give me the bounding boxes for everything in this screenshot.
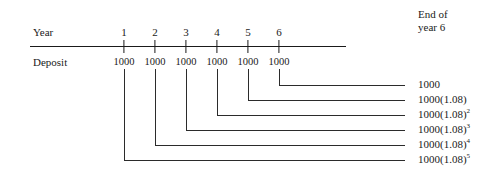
future-value-base-year-5: 1000(1.08) xyxy=(418,93,467,105)
deposit-amount-year-5: 1000 xyxy=(238,57,259,68)
connector-line-year-5 xyxy=(248,100,405,101)
future-value-label-year-1: 1000(1.08)5 xyxy=(418,154,470,165)
connector-line-year-6 xyxy=(279,85,405,86)
future-value-base-year-4: 1000(1.08) xyxy=(418,108,467,120)
connector-line-year-1 xyxy=(124,160,405,161)
future-value-base-year-6: 1000 xyxy=(418,78,440,90)
future-value-exponent-year-3: 3 xyxy=(467,122,471,130)
axis-tick-year-4 xyxy=(216,40,217,53)
axis-tick-year-1 xyxy=(123,40,124,53)
year-number-3: 3 xyxy=(183,27,189,38)
year-number-6: 6 xyxy=(276,27,282,38)
year-number-4: 4 xyxy=(214,27,220,38)
connector-line-year-3 xyxy=(186,130,405,131)
connector-line-year-2 xyxy=(155,145,405,146)
year-number-5: 5 xyxy=(245,27,251,38)
time-axis-line xyxy=(30,46,346,47)
connector-line-year-4 xyxy=(217,115,405,116)
future-value-base-year-1: 1000(1.08) xyxy=(418,153,467,165)
cash-flow-timeline-figure: End of year 6 Year Deposit 1 2 3 4 5 6 1… xyxy=(0,0,496,187)
deposit-amount-year-4: 1000 xyxy=(207,57,228,68)
drop-line-year-3 xyxy=(186,69,187,130)
future-value-label-year-3: 1000(1.08)3 xyxy=(418,124,470,135)
future-value-label-year-4: 1000(1.08)2 xyxy=(418,109,470,120)
future-value-exponent-year-1: 5 xyxy=(467,152,471,160)
drop-line-year-6 xyxy=(279,69,280,85)
future-value-exponent-year-2: 4 xyxy=(467,137,471,145)
deposit-amount-year-6: 1000 xyxy=(269,57,290,68)
axis-tick-year-2 xyxy=(154,40,155,53)
year-number-1: 1 xyxy=(121,27,127,38)
future-value-label-year-2: 1000(1.08)4 xyxy=(418,139,470,150)
axis-tick-year-6 xyxy=(278,40,279,53)
deposit-row-label: Deposit xyxy=(33,57,67,68)
drop-line-year-1 xyxy=(124,69,125,160)
end-of-year-heading-line2: year 6 xyxy=(418,21,448,34)
end-of-year-heading-line1: End of xyxy=(418,8,448,21)
future-value-base-year-3: 1000(1.08) xyxy=(418,123,467,135)
deposit-amount-year-2: 1000 xyxy=(145,57,166,68)
year-row-label: Year xyxy=(33,27,53,38)
drop-line-year-2 xyxy=(155,69,156,145)
year-number-2: 2 xyxy=(152,27,158,38)
end-of-year-heading: End of year 6 xyxy=(418,8,448,34)
axis-tick-year-3 xyxy=(185,40,186,53)
deposit-amount-year-3: 1000 xyxy=(176,57,197,68)
deposit-amount-year-1: 1000 xyxy=(114,57,135,68)
future-value-exponent-year-4: 2 xyxy=(467,107,471,115)
future-value-label-year-5: 1000(1.08) xyxy=(418,94,467,105)
future-value-label-year-6: 1000 xyxy=(418,79,440,90)
drop-line-year-5 xyxy=(248,69,249,100)
axis-tick-year-5 xyxy=(247,40,248,53)
future-value-base-year-2: 1000(1.08) xyxy=(418,138,467,150)
drop-line-year-4 xyxy=(217,69,218,115)
